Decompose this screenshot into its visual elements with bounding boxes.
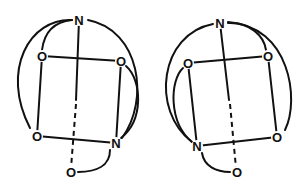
bond xyxy=(220,23,229,100)
arc-bond xyxy=(88,20,137,138)
bond xyxy=(37,56,42,136)
atom-o: O xyxy=(66,165,76,180)
arc-bond xyxy=(228,22,291,130)
bond xyxy=(202,153,230,172)
right-structure xyxy=(166,22,291,172)
atom-o: O xyxy=(263,49,273,64)
atom-o: O xyxy=(183,56,193,71)
atom-n: N xyxy=(192,139,201,154)
atom-o: O xyxy=(272,130,282,145)
bond xyxy=(268,56,277,137)
molecule-diagram: N O O O N O N O O N O O xyxy=(0,0,302,184)
bond xyxy=(42,20,72,50)
dashed-bond xyxy=(230,104,236,168)
atom-n: N xyxy=(111,136,120,151)
bond xyxy=(116,61,121,143)
bond xyxy=(42,56,121,61)
bond xyxy=(37,136,116,143)
atom-o: O xyxy=(232,165,242,180)
atom-o: O xyxy=(37,49,47,64)
bond xyxy=(188,63,197,146)
atom-n: N xyxy=(215,16,224,31)
atom-n: N xyxy=(74,13,83,28)
bond xyxy=(78,150,110,172)
atom-o: O xyxy=(32,129,42,144)
bond xyxy=(188,56,268,63)
bond xyxy=(197,137,277,146)
dashed-bond xyxy=(71,104,76,168)
bond xyxy=(228,23,266,50)
bond xyxy=(76,20,79,100)
atom-o: O xyxy=(116,54,126,69)
